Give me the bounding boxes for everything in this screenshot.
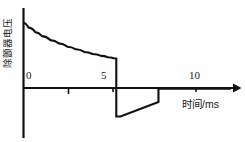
x-axis-title: 时间/ms (182, 99, 219, 110)
x-tick-label-5: 5 (101, 70, 107, 81)
x-axis-arrow-icon (233, 84, 242, 93)
x-tick-label-0: 0 (26, 70, 32, 81)
y-axis-title: 除颤器电压 (3, 15, 13, 71)
chart-plot-area (0, 0, 245, 142)
defibrillator-waveform-chart: 0 5 10 时间/ms 除颤器电压 (0, 0, 245, 142)
x-tick-label-10: 10 (189, 70, 200, 81)
